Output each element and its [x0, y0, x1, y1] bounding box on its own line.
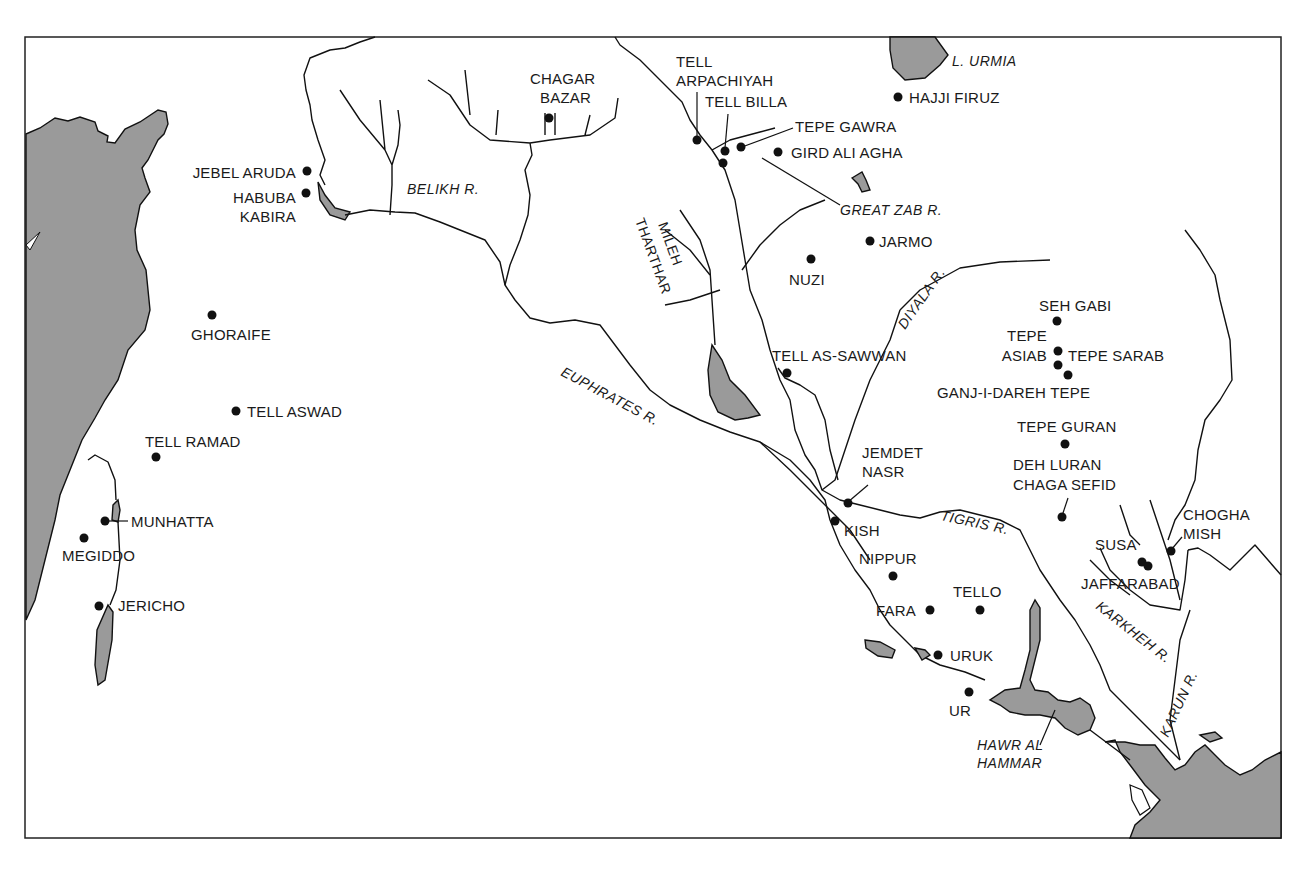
site-label-tell-billa: TELL BILLA: [705, 93, 787, 110]
site-label-susa: SUSA: [1095, 536, 1137, 553]
site-dot-tello[interactable]: [976, 606, 985, 615]
site-dot-tepe-sarab[interactable]: [1054, 361, 1063, 370]
site-dot-seh-gabi[interactable]: [1053, 317, 1062, 326]
site-label-jebel-aruda: JEBEL ARUDA: [193, 164, 296, 181]
site-label-tepe-guran: TEPE GURAN: [1017, 418, 1117, 435]
site-label-hajji-firuz: HAJJI FIRUZ: [909, 89, 1000, 106]
site-label-tell-as-sawwan: TELL AS-SAWWAN: [772, 347, 907, 364]
site-label-tepe-sarab: TEPE SARAB: [1068, 347, 1164, 364]
site-dot-tell-ramad[interactable]: [152, 453, 161, 462]
site-dot-jarmo[interactable]: [866, 237, 875, 246]
site-label-megiddo: MEGIDDO: [62, 547, 135, 564]
site-dot-ganj-i-dareh[interactable]: [1064, 371, 1073, 380]
hawr-al-hammar-label-2: HAMMAR: [977, 755, 1042, 771]
site-label-chaga-sefid: CHAGA SEFID: [1013, 476, 1116, 493]
site-dot-jericho[interactable]: [95, 602, 104, 611]
site-label-chagar-bazar-2: BAZAR: [540, 89, 591, 106]
site-label-uruk: URUK: [950, 647, 993, 664]
site-label-gird-ali-agha: GIRD ALI AGHA: [791, 144, 903, 161]
site-dot-jemdet-nasr[interactable]: [844, 499, 853, 508]
great-zab-river-label: GREAT ZAB R.: [840, 202, 942, 218]
site-label-ganj-i-dareh: GANJ-I-DAREH TEPE: [937, 384, 1090, 401]
site-label-tell-aswad: TELL ASWAD: [247, 403, 342, 420]
site-label-chogha-mish-2: MISH: [1183, 525, 1221, 542]
site-label-tell-ramad: TELL RAMAD: [145, 433, 241, 450]
site-label-jaffarabad: JAFFARABAD: [1081, 575, 1180, 592]
site-dot-jaffarabad[interactable]: [1144, 562, 1153, 571]
site-label-tell-arpachiyah-2: ARPACHIYAH: [676, 72, 773, 89]
site-dot-nineveh[interactable]: [719, 159, 728, 168]
site-dot-fara[interactable]: [926, 606, 935, 615]
site-label-chogha-mish-1: CHOGHA: [1183, 506, 1250, 523]
site-dot-chogha-mish[interactable]: [1167, 547, 1176, 556]
site-label-tell-arpachiyah-1: TELL: [676, 53, 713, 70]
site-dot-tell-as-sawwan[interactable]: [783, 369, 792, 378]
site-dot-kish[interactable]: [831, 517, 840, 526]
site-label-tepe-asiab-1: TEPE: [1007, 327, 1047, 344]
site-dot-tell-arpachiyah[interactable]: [693, 136, 702, 145]
site-label-tello: TELLO: [953, 583, 1002, 600]
site-dot-tell-aswad[interactable]: [232, 407, 241, 416]
site-dot-jebel-aruda[interactable]: [303, 167, 312, 176]
site-dot-nuzi[interactable]: [807, 255, 816, 264]
map-canvas: L. URMIA HAWR AL HAMMAR BELIKH R. GREAT …: [0, 0, 1300, 879]
site-label-fara: FARA: [876, 602, 916, 619]
site-dot-uruk[interactable]: [934, 651, 943, 660]
site-dot-megiddo[interactable]: [80, 534, 89, 543]
site-label-chagar-bazar-1: CHAGAR: [530, 70, 595, 87]
site-label-tepe-gawra: TEPE GAWRA: [795, 118, 896, 135]
site-dot-nippur[interactable]: [889, 572, 898, 581]
site-dot-munhatta[interactable]: [101, 517, 110, 526]
site-label-ur: UR: [949, 702, 971, 719]
site-label-jemdet-nasr-2: NASR: [862, 463, 904, 480]
site-dot-tepe-asiab[interactable]: [1054, 347, 1063, 356]
site-label-deh-luran: DEH LURAN: [1013, 456, 1101, 473]
site-label-kish: KISH: [844, 522, 880, 539]
site-dot-gird-ali-agha[interactable]: [774, 148, 783, 157]
site-dot-tell-billa[interactable]: [721, 147, 730, 156]
site-dot-hajji-firuz[interactable]: [894, 93, 903, 102]
hawr-al-hammar-label-1: HAWR AL: [977, 737, 1044, 753]
site-label-ghoraife: GHORAIFE: [191, 326, 271, 343]
site-dot-chagar-bazar[interactable]: [545, 114, 554, 123]
site-label-jarmo: JARMO: [879, 233, 933, 250]
site-dot-chaga-sefid[interactable]: [1058, 513, 1067, 522]
site-label-munhatta: MUNHATTA: [131, 513, 214, 530]
site-dot-tepe-gawra[interactable]: [737, 143, 746, 152]
site-dot-ghoraife[interactable]: [208, 311, 217, 320]
site-dot-habuba-kabira[interactable]: [302, 189, 311, 198]
site-label-tepe-asiab-2: ASIAB: [1002, 347, 1047, 364]
site-label-jericho: JERICHO: [118, 597, 185, 614]
belikh-river-label: BELIKH R.: [407, 181, 479, 197]
site-label-habuba-kabira-2: KABIRA: [240, 208, 296, 225]
lake-urmia-label: L. URMIA: [952, 53, 1017, 69]
site-label-jemdet-nasr-1: JEMDET: [862, 444, 923, 461]
site-label-seh-gabi: SEH GABI: [1039, 297, 1111, 314]
site-dot-tepe-guran[interactable]: [1061, 440, 1070, 449]
site-label-nippur: NIPPUR: [859, 550, 917, 567]
site-dot-ur[interactable]: [965, 688, 974, 697]
site-label-nuzi: NUZI: [789, 271, 825, 288]
site-label-habuba-kabira-1: HABUBA: [233, 189, 296, 206]
